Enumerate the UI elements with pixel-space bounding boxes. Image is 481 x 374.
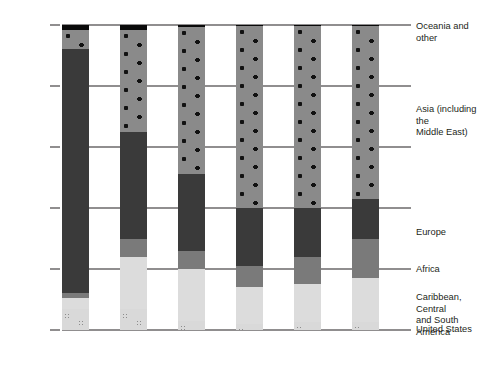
segment-asia: [178, 27, 205, 175]
y-tick-60: [50, 147, 60, 148]
y-tick-100: [50, 25, 60, 26]
legend-item-united-states: United States: [416, 324, 481, 336]
y-tick-80: [50, 86, 60, 87]
legend-label-caribbean-line1: Caribbean, Central: [416, 292, 481, 315]
bar-pre-1971[interactable]: Pre–1971: [62, 25, 89, 330]
segment-asia: [62, 30, 89, 50]
segment-europe: [62, 49, 89, 293]
segment-caribbean: [352, 278, 379, 322]
segment-asia: [120, 30, 147, 132]
segment-oceania: [294, 25, 321, 26]
segment-europe: [178, 174, 205, 250]
segment-africa: [62, 293, 89, 298]
segment-europe: [352, 199, 379, 239]
segment-united-states: [62, 309, 89, 330]
plot-area: Pre–1971 1971–1980 1981–1990: [62, 25, 380, 330]
segment-oceania: [352, 25, 379, 26]
legend-item-oceania: Oceania and other: [416, 21, 481, 44]
stacked-bar-chart: 0 % 20 % 40 % 60 % 80 % 100 % Pre–1971: [0, 0, 481, 374]
segment-united-states: [120, 309, 147, 330]
segment-asia: [294, 26, 321, 208]
y-tick-20: [50, 269, 60, 270]
segment-caribbean: [120, 257, 147, 309]
segment-oceania: [178, 25, 205, 27]
bar-1981-1990[interactable]: 1981–1990: [178, 25, 205, 330]
segment-africa: [178, 251, 205, 269]
legend-label-oceania: Oceania and other: [416, 21, 481, 44]
y-tick-0: [50, 330, 60, 331]
segment-caribbean: [294, 284, 321, 322]
segment-united-states: [178, 321, 205, 330]
legend-label-united-states: United States: [416, 324, 481, 336]
segment-europe: [294, 208, 321, 257]
legend-item-asia: Asia (including the Middle East): [416, 104, 481, 139]
segment-europe: [236, 208, 263, 266]
segment-caribbean: [236, 287, 263, 324]
segment-oceania: [120, 25, 147, 30]
segment-oceania: [62, 25, 89, 30]
bar-2001-2005[interactable]: 2001–2005: [294, 25, 321, 330]
segment-caribbean: [178, 269, 205, 321]
segment-asia: [352, 26, 379, 199]
segment-europe: [120, 132, 147, 239]
y-tick-40: [50, 208, 60, 209]
legend-item-europe: Europe: [416, 227, 481, 239]
segment-united-states: [294, 322, 321, 330]
segment-caribbean: [62, 298, 89, 309]
segment-asia: [236, 26, 263, 208]
segment-africa: [120, 239, 147, 257]
legend-label-europe: Europe: [416, 227, 481, 239]
bar-2006-2011[interactable]: 2006–2011: [352, 25, 379, 330]
legend-label-asia-line2: Middle East): [416, 127, 481, 139]
segment-africa: [352, 239, 379, 279]
bar-1991-2000[interactable]: 1991–2000: [236, 25, 263, 330]
segment-oceania: [236, 25, 263, 26]
segment-united-states: [352, 322, 379, 330]
bar-1971-1980[interactable]: 1971–1980: [120, 25, 147, 330]
legend-label-africa: Africa: [416, 264, 481, 276]
legend-label-asia-line1: Asia (including the: [416, 104, 481, 127]
segment-africa: [294, 257, 321, 284]
legend-item-africa: Africa: [416, 264, 481, 276]
segment-africa: [236, 266, 263, 287]
segment-united-states: [236, 324, 263, 330]
